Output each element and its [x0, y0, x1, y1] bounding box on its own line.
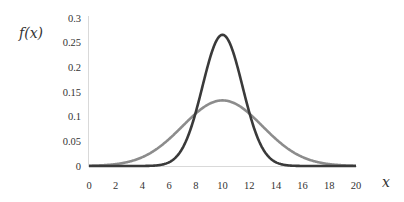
y-tick-label: 0.1	[68, 111, 81, 122]
y-tick-label: 0.05	[63, 136, 81, 147]
y-tick-label: 0.15	[63, 87, 81, 98]
y-tick-label: 0.2	[68, 62, 81, 73]
x-tick-label: 12	[244, 180, 255, 191]
x-tick-label: 4	[140, 180, 146, 191]
y-axis: 00.050.10.150.20.250.3	[63, 13, 89, 172]
x-tick-label: 18	[324, 180, 335, 191]
x-tick-label: 14	[271, 180, 282, 191]
y-tick-label: 0	[76, 161, 81, 172]
x-axis: 02468101214161820	[86, 167, 361, 192]
x-tick-label: 8	[193, 180, 198, 191]
x-tick-label: 16	[297, 180, 308, 191]
normal-distribution-chart: 00.050.10.150.20.250.3 02468101214161820…	[0, 0, 404, 202]
series-line	[89, 100, 356, 165]
x-tick-label: 6	[166, 180, 171, 191]
y-axis-label: f(x)	[18, 25, 43, 41]
x-tick-label: 20	[351, 180, 362, 191]
x-axis-label: x	[382, 174, 390, 190]
y-tick-label: 0.25	[63, 37, 81, 48]
x-tick-label: 10	[217, 180, 228, 191]
x-tick-label: 0	[86, 180, 91, 191]
y-tick-label: 0.3	[68, 13, 81, 24]
x-tick-label: 2	[113, 180, 118, 191]
